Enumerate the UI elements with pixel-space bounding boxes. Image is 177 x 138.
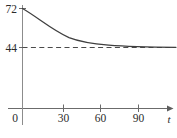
chart-figure: 72 44 0 30 60 90 t <box>0 0 177 138</box>
chart-plot-area: 72 44 0 30 60 90 t <box>0 0 177 138</box>
decay-curve-line <box>23 9 177 48</box>
y-tick-label-72: 72 <box>6 3 18 15</box>
origin-label: 0 <box>12 112 18 124</box>
x-axis <box>8 106 174 112</box>
x-axis-variable-label: t <box>167 113 171 125</box>
y-tick-label-44: 44 <box>6 42 18 54</box>
x-tick-label-90: 90 <box>133 112 145 124</box>
x-axis-arrowhead <box>167 106 174 112</box>
x-tick-label-30: 30 <box>58 112 70 124</box>
x-tick-label-60: 60 <box>95 112 107 124</box>
